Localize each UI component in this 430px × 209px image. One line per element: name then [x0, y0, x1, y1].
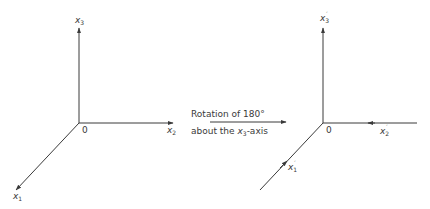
x1-prime-axis-line: [260, 123, 323, 190]
x2-prime-label: x2′: [379, 123, 389, 137]
rotated-frame: 0 x3′ x2′ x1′: [260, 10, 417, 190]
x3-prime-label: x3′: [319, 10, 329, 24]
x2-label: x2: [166, 125, 176, 136]
x3-label: x3: [74, 15, 84, 26]
x1-prime-arrow: [280, 161, 287, 168]
x1-prime-label: x1′: [287, 159, 297, 173]
rotation-caption-line1: Rotation of 180°: [191, 109, 265, 119]
rotation-arrow-group: Rotation of 180° about the x3-axis: [191, 109, 286, 137]
original-frame: 0 x3 x2 x1: [12, 15, 176, 202]
rotation-caption-line2: about the x3-axis: [191, 126, 268, 137]
x1-axis: [16, 123, 79, 190]
origin-prime-label: 0: [326, 125, 332, 135]
x1-label: x1: [12, 191, 22, 202]
origin-label: 0: [82, 125, 88, 135]
rotation-diagram: 0 x3 x2 x1 Rotation of 180° about the x3…: [0, 0, 430, 209]
